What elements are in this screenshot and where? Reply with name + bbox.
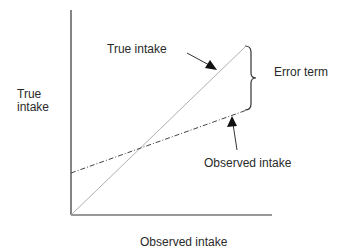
y-axis-label: True intake [17, 88, 49, 114]
observed-intake-arrowhead-icon [227, 116, 237, 127]
diagram-canvas [0, 0, 340, 252]
observed-intake-arrow [233, 124, 237, 150]
true-intake-line [71, 47, 245, 215]
observed-intake-label: Observed intake [204, 157, 291, 170]
true-intake-arrowhead-icon [205, 60, 217, 70]
y-axis-label-line2: intake [17, 101, 49, 114]
x-axis-label: Observed intake [140, 236, 227, 249]
error-term-label: Error term [274, 66, 328, 79]
error-brace [245, 46, 256, 110]
true-intake-arrow [187, 53, 211, 66]
true-intake-label: True intake [107, 43, 167, 56]
